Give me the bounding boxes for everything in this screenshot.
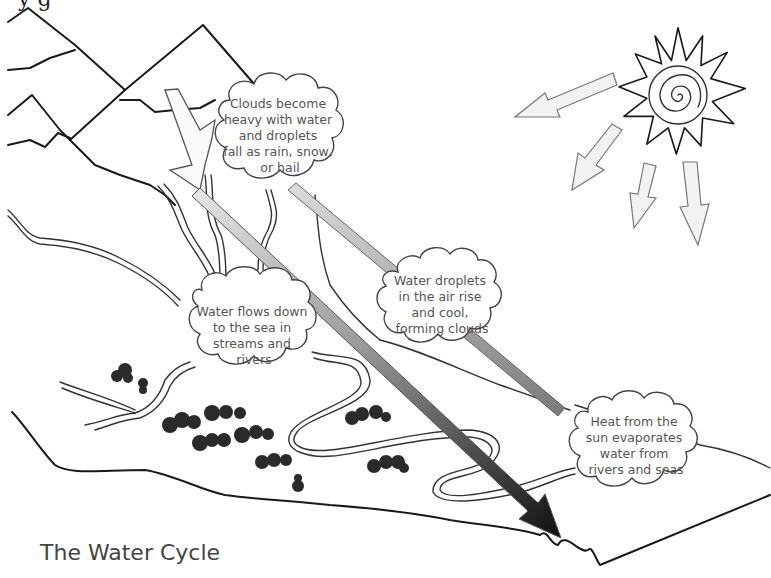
collection-cloud: Water flows down to the sea in streams a… [189, 267, 316, 367]
water-cycle-diagram: y g [0, 0, 771, 578]
condensation-cloud: Water droplets in the air rise and cool,… [377, 248, 501, 342]
cropped-heading-fragment: y g [17, 0, 52, 11]
precipitation-cloud: Clouds become heavy with water and dropl… [215, 73, 343, 178]
mountain-icon [8, 8, 255, 205]
sun-ray-arrow-icon [515, 73, 709, 245]
sun-icon [619, 28, 745, 154]
evaporation-label: Heat from the sun evaporates water from … [586, 414, 687, 477]
diagram-title: The Water Cycle [39, 540, 220, 565]
collection-label: Water flows down to the sea in streams a… [197, 304, 312, 367]
main-river-icon [289, 352, 575, 501]
evaporation-cloud: Heat from the sun evaporates water from … [569, 391, 697, 486]
land-outline [12, 340, 570, 535]
